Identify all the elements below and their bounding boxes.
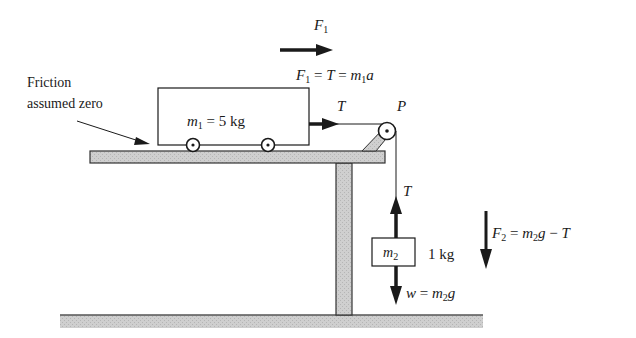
hanging-mass-value: 1 kg	[428, 246, 455, 262]
atwood-table-diagram: Friction assumed zero m1 = 5 kg F1 F1 = …	[0, 0, 636, 338]
tension-horizontal-arrow-icon	[309, 118, 339, 130]
f2-arrow-icon	[480, 211, 492, 269]
friction-label-line1: Friction	[27, 75, 71, 90]
f1-equation: F1 = T = m1a	[295, 67, 374, 85]
tension-vertical-arrow-icon	[390, 196, 402, 238]
pulley	[379, 123, 396, 140]
weight-arrow-icon	[390, 266, 402, 305]
friction-label-line2: assumed zero	[27, 96, 103, 111]
friction-pointer-arrow-icon	[77, 121, 150, 145]
tension-vertical-label: T	[403, 183, 413, 199]
cart-mass-label: m1 = 5 kg	[187, 113, 246, 131]
f2-equation: F2 = m2g − T	[491, 225, 571, 243]
tension-horizontal-label: T	[337, 98, 347, 114]
f1-label: F1	[313, 17, 328, 35]
f1-arrow-icon	[280, 44, 333, 56]
weight-equation: w = m2g	[406, 285, 456, 303]
tabletop	[90, 151, 385, 163]
wheel-icon	[262, 139, 275, 152]
pulley-label: P	[396, 98, 406, 114]
floor	[60, 315, 483, 328]
table-leg	[336, 163, 352, 315]
wheel-icon	[187, 139, 200, 152]
